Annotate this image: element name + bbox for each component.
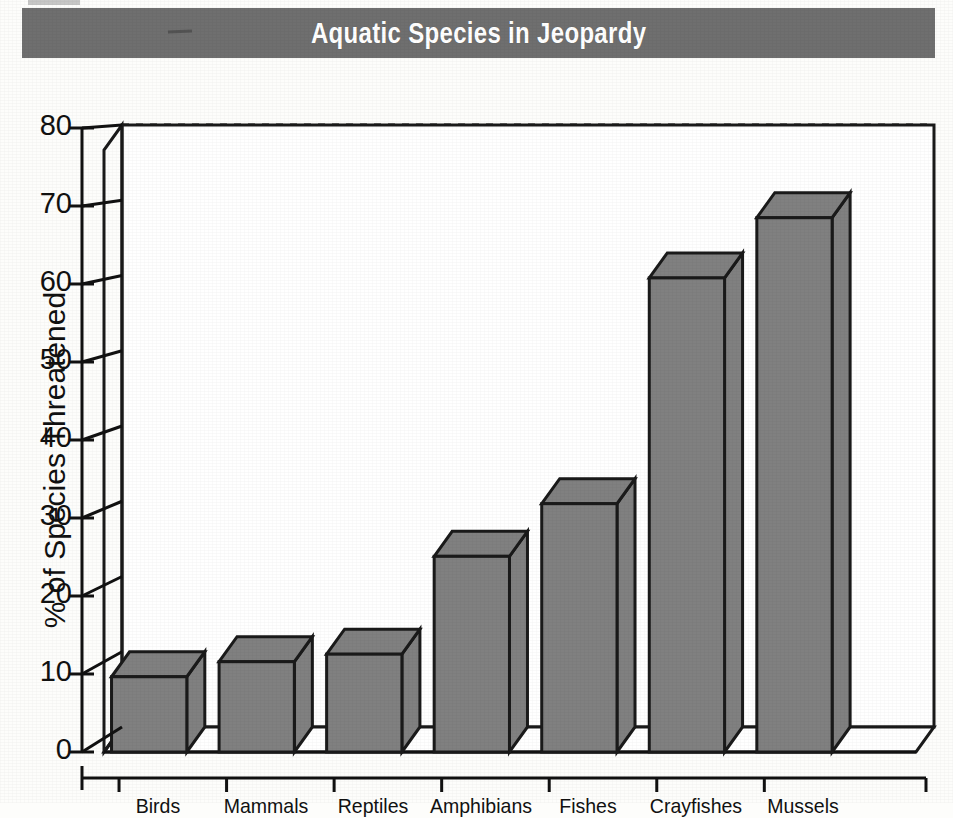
y-tick-label-10: 10	[12, 655, 72, 688]
bar-birds	[112, 652, 205, 752]
y-tick-label-70: 70	[12, 187, 72, 220]
bar-mussels	[757, 193, 850, 752]
chart-canvas	[0, 58, 953, 803]
page-title: Aquatic Species in Jeopardy	[311, 16, 646, 50]
y-tick-label-40: 40	[12, 421, 72, 454]
y-tick-label-20: 20	[12, 577, 72, 610]
y-tick-label-50: 50	[12, 343, 72, 376]
bar-chart: % of Species Threatened 0102030405060708…	[0, 58, 953, 803]
bar-reptiles	[327, 629, 420, 752]
y-tick-label-30: 30	[12, 499, 72, 532]
bar-crayfishes	[649, 253, 742, 752]
x-category-label-mussels: Mussels	[729, 794, 878, 818]
page-top-artifact	[28, 0, 80, 5]
y-tick-label-60: 60	[12, 265, 72, 298]
chart-title-banner: Aquatic Species in Jeopardy	[22, 8, 935, 58]
bar-mammals	[219, 637, 312, 752]
y-tick-label-0: 0	[12, 733, 72, 766]
y-tick-label-80: 80	[12, 109, 72, 142]
bar-amphibians	[434, 531, 527, 752]
bar-fishes	[542, 479, 635, 752]
